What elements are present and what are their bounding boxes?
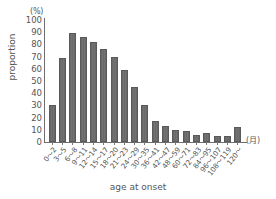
bar [234, 127, 241, 142]
bar-slot [233, 20, 243, 142]
x-axis-tick-mark [237, 142, 238, 145]
y-axis-tick-label: 70 [31, 52, 42, 61]
bar [100, 49, 107, 142]
bar [69, 33, 76, 142]
bar [162, 126, 169, 142]
bar-slot [191, 20, 201, 142]
x-axis-tick-mark [217, 142, 218, 145]
y-axis-title: proportion [7, 21, 17, 93]
x-axis-tick-mark [124, 142, 125, 145]
bar-slot [140, 20, 150, 142]
bar [193, 135, 200, 142]
x-axis-tick-mark [93, 142, 94, 145]
bar-series [45, 20, 243, 142]
x-axis-tick-labels: 0～23～56～89～1112～1415～1718～2021～2324～2930… [45, 146, 243, 180]
bar-slot [130, 20, 140, 142]
bar-slot [78, 20, 88, 142]
y-axis-tick-label: 30 [31, 101, 42, 110]
x-axis-tick-mark [206, 142, 207, 145]
bar-slot [57, 20, 67, 142]
bar-slot [68, 20, 78, 142]
x-axis-tick-mark [62, 142, 63, 145]
x-axis-title: age at onset [0, 182, 276, 192]
y-axis-tick-label: 100 [26, 16, 42, 25]
bar-slot [181, 20, 191, 142]
bar-slot [99, 20, 109, 142]
y-axis-tick-label: 40 [31, 89, 42, 98]
bar [121, 70, 128, 142]
bar [141, 105, 148, 142]
bar [49, 105, 56, 142]
x-axis-tick-mark [83, 142, 84, 145]
bar-slot [222, 20, 232, 142]
bar [183, 131, 190, 142]
y-axis-tick-label: 20 [31, 113, 42, 122]
x-axis-tick-mark [227, 142, 228, 145]
bar-slot [47, 20, 57, 142]
bar [90, 42, 97, 142]
bar [131, 87, 138, 142]
bar-slot [119, 20, 129, 142]
x-axis-tick-mark [52, 142, 53, 145]
y-axis-tick-label: 50 [31, 77, 42, 86]
bar-slot [150, 20, 160, 142]
y-axis-tick-label: 60 [31, 65, 42, 74]
x-axis-tick-mark [144, 142, 145, 145]
bar-slot [88, 20, 98, 142]
bar-slot [160, 20, 170, 142]
x-axis-tick-mark [155, 142, 156, 145]
y-axis-tick-label: 90 [31, 28, 42, 37]
y-axis-tick-label: 80 [31, 40, 42, 49]
x-axis-unit-label: (月) [246, 134, 260, 145]
x-axis-tick-mark [186, 142, 187, 145]
bar-chart: (%) proportion 1009080706050403020100 0～… [0, 0, 276, 199]
bar-slot [212, 20, 222, 142]
bar [80, 37, 87, 142]
xlabel-slot: 120～ [233, 146, 243, 180]
bar-slot [109, 20, 119, 142]
bar [111, 57, 118, 142]
bar-slot [202, 20, 212, 142]
bar [59, 58, 66, 142]
bar-slot [171, 20, 181, 142]
y-axis-tick-label: 10 [31, 126, 42, 135]
bar [203, 133, 210, 142]
bar [152, 121, 159, 142]
bar [172, 130, 179, 142]
y-axis-tick-label: 0 [37, 138, 42, 147]
